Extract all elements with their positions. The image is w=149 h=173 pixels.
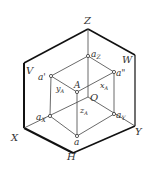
point-aX bbox=[48, 114, 51, 117]
label-aX: aX bbox=[36, 112, 46, 123]
label-A: A bbox=[73, 80, 81, 90]
label-xA: xA bbox=[100, 81, 109, 91]
label-zA: zA bbox=[79, 106, 88, 116]
label-aY: aY bbox=[116, 110, 126, 121]
label-aZ: aZ bbox=[91, 49, 101, 60]
label-O: O bbox=[90, 92, 98, 103]
point-aZ bbox=[86, 54, 89, 57]
h-plane-right-edge bbox=[73, 126, 135, 153]
label-a: a bbox=[74, 137, 79, 147]
label-a-prime: a' bbox=[38, 72, 46, 82]
h-plane-left-edge bbox=[24, 128, 73, 153]
point-a-prime bbox=[49, 74, 52, 77]
point-A bbox=[75, 90, 78, 93]
label-H: H bbox=[66, 151, 76, 162]
label-Z: Z bbox=[83, 15, 92, 26]
projection-lines bbox=[50, 56, 114, 136]
label-V: V bbox=[26, 65, 35, 76]
x-axis bbox=[24, 97, 88, 128]
label-Y: Y bbox=[135, 126, 143, 137]
labels: Z W V X Y H O A aZ a' a" aX aY a xA yA z… bbox=[10, 15, 143, 162]
label-a-dprime: a" bbox=[116, 68, 126, 78]
v-plane-top-edge bbox=[24, 29, 88, 63]
projection-diagram: Z W V X Y H O A aZ a' a" aX aY a xA yA z… bbox=[0, 0, 149, 173]
label-W: W bbox=[122, 54, 133, 65]
label-yA: yA bbox=[55, 84, 65, 94]
label-X: X bbox=[10, 132, 19, 143]
